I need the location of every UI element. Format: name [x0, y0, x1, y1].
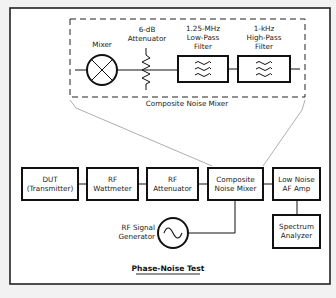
hpf-label-1: 1-kHz: [254, 24, 275, 33]
block-composite-line2: Noise Mixer: [215, 184, 257, 193]
block-dut: DUT (Transmitter): [22, 168, 78, 200]
diagram-title: Phase-Noise Test: [132, 264, 205, 273]
block-composite-line1: Composite: [216, 175, 255, 184]
hpf-label-2: High-Pass: [246, 33, 281, 42]
attenuator-6db-label-2: Attenuator: [128, 34, 167, 43]
low-pass-filter-block: [178, 56, 228, 82]
hpf-label-3: Filter: [255, 42, 273, 51]
block-composite-noise-mixer: Composite Noise Mixer: [208, 168, 263, 200]
composite-detail-label: Composite Noise Mixer: [146, 99, 229, 108]
attenuator-6db-label-1: 6-dB: [139, 25, 156, 34]
phase-noise-test-diagram: Composite Noise Mixer Mixer 6-dB Attenua…: [0, 0, 336, 298]
signal-generator-label-1: RF Signal: [122, 223, 156, 232]
block-attenuator-line2: Attenuator: [153, 184, 192, 193]
lpf-label-2: Low-Pass: [187, 33, 220, 42]
block-spectrum-analyzer: Spectrum Analyzer: [273, 215, 320, 248]
block-afamp-line2: AF Amp: [283, 184, 311, 193]
block-afamp-line1: Low Noise: [278, 175, 315, 184]
block-dut-line2: (Transmitter): [27, 184, 74, 193]
block-low-noise-af-amp: Low Noise AF Amp: [273, 168, 320, 200]
block-wattmeter-line2: Wattmeter: [93, 184, 131, 193]
block-rf-attenuator: RF Attenuator: [147, 168, 198, 200]
high-pass-filter-block: [238, 56, 290, 82]
mixer-icon: [87, 55, 117, 85]
lpf-label-1: 1.25-MHz: [186, 24, 220, 33]
block-rf-wattmeter: RF Wattmeter: [87, 168, 138, 200]
block-spectrum-line1: Spectrum: [279, 222, 314, 231]
block-wattmeter-line1: RF: [108, 175, 117, 184]
block-spectrum-line2: Analyzer: [281, 231, 312, 240]
block-attenuator-line1: RF: [168, 175, 177, 184]
mixer-label: Mixer: [92, 40, 112, 49]
block-dut-line1: DUT: [42, 175, 58, 184]
lpf-label-3: Filter: [194, 42, 212, 51]
sine-wave-source-icon: [158, 218, 188, 248]
signal-generator-label-2: Generator: [119, 232, 156, 241]
